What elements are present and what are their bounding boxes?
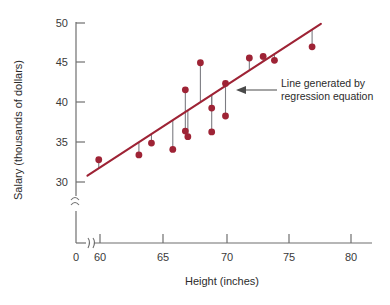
data-point (208, 105, 215, 112)
data-point (222, 80, 229, 87)
data-point (169, 146, 176, 153)
annotation-line-2: regression equation (281, 90, 373, 102)
data-point (197, 59, 204, 66)
data-point (222, 113, 229, 120)
data-points-group (95, 43, 315, 163)
regression-annotation: Line generated by regression equation (236, 77, 373, 102)
x-tick-label-65: 65 (157, 251, 169, 263)
x-tick-label-70: 70 (221, 251, 233, 263)
regression-scatter-figure: 50 45 40 35 30 Salary (thousands of doll… (0, 0, 390, 305)
y-tick-label-40: 40 (56, 96, 68, 108)
annotation-line-1: Line generated by (281, 77, 366, 89)
y-axis-title: Salary (thousands of dollars) (12, 60, 24, 200)
y-tick-label-45: 45 (56, 56, 68, 68)
data-point (208, 129, 215, 136)
chart-canvas: 50 45 40 35 30 Salary (thousands of doll… (0, 0, 390, 305)
x-tick-label-75: 75 (283, 251, 295, 263)
y-tick-label-50: 50 (56, 17, 68, 29)
y-axis: 50 45 40 35 30 Salary (thousands of doll… (12, 17, 85, 243)
x-axis-break-icon (88, 238, 95, 248)
x-axis: 0 60 65 70 75 80 Height (inches) (73, 234, 372, 287)
data-point (271, 57, 278, 64)
data-point (182, 86, 189, 93)
x-tick-label-60: 60 (94, 251, 106, 263)
data-point (136, 152, 143, 159)
x-axis-title: Height (inches) (185, 275, 259, 287)
y-axis-break-icon (71, 198, 79, 206)
annotation-arrow-icon (236, 86, 246, 94)
data-point (95, 156, 102, 163)
y-tick-label-30: 30 (56, 176, 68, 188)
y-tick-label-35: 35 (56, 136, 68, 148)
x-tick-label-80: 80 (345, 251, 357, 263)
data-point (184, 133, 191, 140)
data-point (309, 43, 316, 50)
data-point (246, 55, 253, 62)
x-origin-label: 0 (73, 251, 79, 263)
data-point (260, 53, 267, 60)
data-point (148, 140, 155, 147)
